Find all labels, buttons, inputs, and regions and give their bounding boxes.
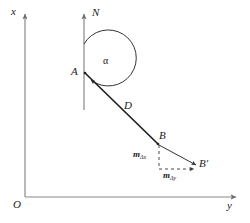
angle-alpha-label: α xyxy=(103,56,108,66)
resultant-vector-bb-prime xyxy=(159,145,196,165)
y-axis-label: y xyxy=(227,200,232,211)
x-axis-label: x xyxy=(11,6,16,17)
point-a-label: A xyxy=(71,66,78,77)
vector-horizontal-component-label: mΔy xyxy=(163,171,176,180)
angle-arc xyxy=(84,30,136,86)
segment-d-label: D xyxy=(124,100,132,111)
north-reference-label: N xyxy=(92,7,99,18)
vector-vertical-symbol: m xyxy=(133,149,140,159)
point-b-marker xyxy=(157,143,160,146)
diagram-canvas xyxy=(0,0,250,223)
origin-label: O xyxy=(13,199,21,210)
physics-diagram: x y O N α A B B′ D mΔx mΔy xyxy=(0,0,250,223)
vector-horizontal-subscript: Δy xyxy=(170,175,176,181)
vector-vertical-subscript: Δx xyxy=(140,154,146,160)
point-a-marker xyxy=(84,72,87,75)
point-b-prime-label: B′ xyxy=(199,158,208,169)
point-b-label: B xyxy=(159,130,166,141)
vector-vertical-component-label: mΔx xyxy=(133,150,146,159)
vector-horizontal-symbol: m xyxy=(163,170,170,180)
displacement-line-d xyxy=(85,73,158,144)
